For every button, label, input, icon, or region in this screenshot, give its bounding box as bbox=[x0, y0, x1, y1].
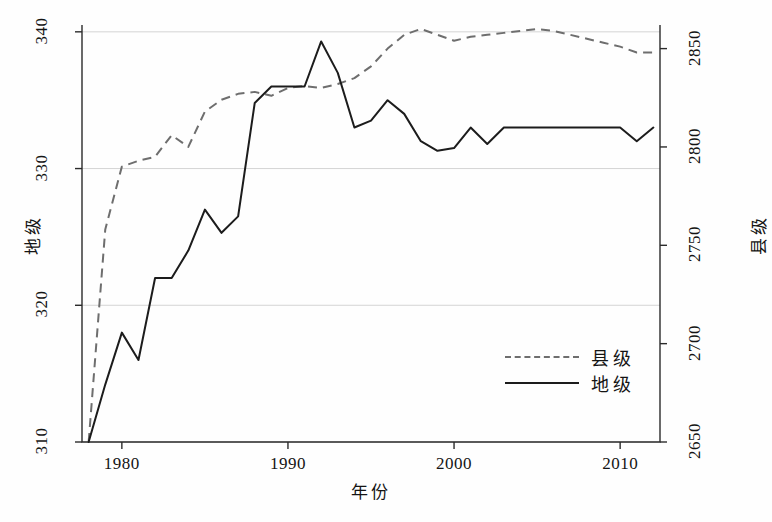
legend-item-prefecture: 地级 bbox=[505, 370, 655, 396]
x-tick-label: 1990 bbox=[262, 454, 314, 474]
x-tick-label: 2010 bbox=[594, 454, 646, 474]
plot-canvas bbox=[0, 0, 772, 522]
y-right-tick-label: 2750 bbox=[685, 218, 705, 270]
y-right-tick-label: 2650 bbox=[685, 415, 705, 467]
y-left-tick-label: 330 bbox=[32, 146, 52, 190]
x-tick-label: 2000 bbox=[428, 454, 480, 474]
x-axis-title: 年份 bbox=[331, 478, 411, 503]
y-right-tick-label: 2800 bbox=[685, 120, 705, 172]
y-left-tick-label: 320 bbox=[32, 282, 52, 326]
y-axis-left-title: 地级 bbox=[19, 199, 44, 269]
chart-legend: 县级 地级 bbox=[505, 344, 655, 396]
legend-swatch-dashed-icon bbox=[505, 356, 579, 358]
x-tick-label: 1980 bbox=[96, 454, 148, 474]
legend-item-county: 县级 bbox=[505, 344, 655, 370]
y-right-tick-label: 2700 bbox=[685, 317, 705, 369]
y-right-tick-label: 2850 bbox=[685, 22, 705, 74]
y-left-tick-label: 340 bbox=[32, 9, 52, 53]
chart-figure: 3103203303402650270027502800285019801990… bbox=[0, 0, 772, 522]
y-left-tick-label: 310 bbox=[32, 419, 52, 463]
legend-label-county: 县级 bbox=[591, 344, 635, 370]
legend-label-prefecture: 地级 bbox=[591, 370, 635, 396]
legend-swatch-solid-icon bbox=[505, 382, 579, 384]
y-axis-right-title: 县级 bbox=[745, 199, 770, 269]
